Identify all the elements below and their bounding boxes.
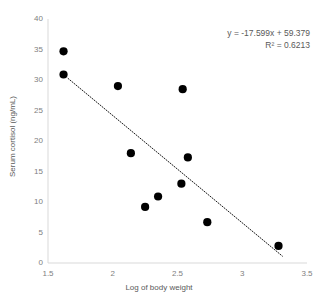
y-axis-tick-label: 5 xyxy=(21,228,43,237)
x-axis-tick-label: 1.5 xyxy=(36,269,60,278)
data-point-marker[interactable] xyxy=(59,47,67,55)
y-axis-tick-label: 35 xyxy=(21,45,43,54)
y-axis-tick-label: 20 xyxy=(21,136,43,145)
y-axis-tick-label: 40 xyxy=(21,14,43,23)
data-points xyxy=(59,47,282,250)
x-axis-tick-label: 2.5 xyxy=(166,269,190,278)
r-squared-text: R² = 0.6213 xyxy=(178,39,310,51)
x-axis-title: Log of body weight xyxy=(0,283,318,292)
y-axis-tick-label: 30 xyxy=(21,75,43,84)
regression-equation-text: y = -17.599x + 59.379 xyxy=(178,27,310,39)
data-point-marker[interactable] xyxy=(59,70,67,78)
trendline-equation-annotation: y = -17.599x + 59.379 R² = 0.6213 xyxy=(178,27,310,51)
axes-group xyxy=(48,19,307,263)
x-axis-tick-label: 3 xyxy=(230,269,254,278)
y-axis-tick-label: 15 xyxy=(21,167,43,176)
x-axis-tick-label: 2 xyxy=(101,269,125,278)
data-point-marker[interactable] xyxy=(177,180,185,188)
data-point-marker[interactable] xyxy=(179,85,187,93)
data-point-marker[interactable] xyxy=(114,82,122,90)
trendline xyxy=(68,78,282,256)
y-axis-tick-label: 0 xyxy=(21,258,43,267)
data-point-marker[interactable] xyxy=(141,203,149,211)
data-point-marker[interactable] xyxy=(154,192,162,200)
data-point-marker[interactable] xyxy=(184,153,192,161)
y-axis-title: Serum cortisol (ng/mL) xyxy=(8,72,17,202)
y-axis-tick-label: 10 xyxy=(21,197,43,206)
data-point-marker[interactable] xyxy=(203,218,211,226)
y-axis-tick-label: 25 xyxy=(21,106,43,115)
data-point-marker[interactable] xyxy=(127,149,135,157)
trendline-path xyxy=(68,78,282,256)
data-point-marker[interactable] xyxy=(274,242,282,250)
x-axis-tick-label: 3.5 xyxy=(295,269,318,278)
scatter-chart: 0510152025303540 1.522.533.5 Log of body… xyxy=(0,0,318,303)
